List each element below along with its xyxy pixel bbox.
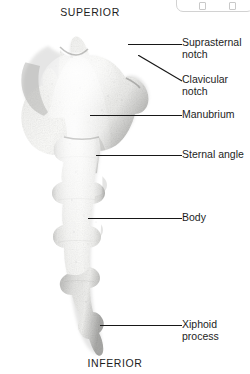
- leader-line-body: [88, 218, 182, 219]
- orientation-label-superior: SUPERIOR: [0, 6, 180, 18]
- label-sternal-angle: Sternal angle: [182, 149, 244, 161]
- top-edge-ui-remnant: [176, 0, 250, 12]
- remnant-hole-right: [229, 2, 236, 10]
- sternum-anatomy-figure: SUPERIOR INFERIOR Suprasternal notch Cla…: [0, 0, 250, 374]
- label-manubrium: Manubrium: [182, 109, 235, 121]
- label-xiphoid-process: Xiphoid process: [182, 319, 219, 342]
- leader-line-suprasternal-notch: [128, 44, 182, 45]
- leader-line-sternal-angle: [96, 155, 182, 156]
- label-body: Body: [182, 212, 206, 224]
- leader-line-manubrium: [90, 115, 182, 116]
- label-suprasternal-notch: Suprasternal notch: [182, 37, 242, 60]
- remnant-hole-left: [199, 2, 206, 10]
- orientation-label-inferior: INFERIOR: [0, 357, 230, 369]
- leader-line-clavicular-notch: [138, 55, 184, 83]
- label-clavicular-notch: Clavicular notch: [182, 74, 228, 97]
- leader-line-xiphoid-process: [100, 325, 182, 326]
